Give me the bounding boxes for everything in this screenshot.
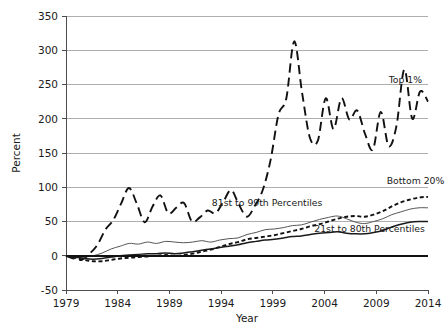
- x-tick-label-2014: 2014: [415, 297, 442, 309]
- y-tick-label-150: 150: [38, 147, 58, 159]
- series-label-3: 21st to 80th Percentiles: [314, 223, 425, 234]
- y-tick-label-200: 200: [38, 113, 58, 125]
- x-tick-label-1979: 1979: [53, 297, 80, 309]
- y-tick-label-100: 100: [38, 181, 58, 193]
- y-tick-label-300: 300: [38, 44, 58, 56]
- x-tick-label-1989: 1989: [156, 297, 183, 309]
- x-axis-tick-labels: 19791984198919941999200420092014: [53, 290, 442, 309]
- x-tick-label-1984: 1984: [104, 297, 131, 309]
- y-tick-label-50: 50: [45, 215, 58, 227]
- chart-figure: -50050100150200250300350 197919841989199…: [0, 0, 448, 328]
- y-tick-label-0: 0: [51, 250, 58, 262]
- series-annotations: Top 1%81st to 99th PercentilesBottom 20%…: [212, 74, 445, 234]
- series-label-1: 81st to 99th Percentiles: [212, 197, 323, 208]
- series-label-0: Top 1%: [388, 74, 423, 85]
- x-tick-label-2004: 2004: [311, 297, 338, 309]
- y-tick-label-350: 350: [38, 10, 58, 22]
- y-tick-label--50: -50: [41, 284, 58, 296]
- series-label-2: Bottom 20%: [387, 175, 445, 186]
- line-chart-canvas: -50050100150200250300350 197919841989199…: [0, 0, 448, 328]
- gridlines: [66, 16, 428, 256]
- y-axis-title: Percent: [10, 133, 22, 173]
- y-tick-label-250: 250: [38, 78, 58, 90]
- x-axis-title: Year: [235, 312, 259, 324]
- x-tick-label-2009: 2009: [363, 297, 390, 309]
- x-tick-label-1999: 1999: [259, 297, 286, 309]
- x-tick-label-1994: 1994: [208, 297, 235, 309]
- y-axis-tick-labels: -50050100150200250300350: [38, 10, 66, 296]
